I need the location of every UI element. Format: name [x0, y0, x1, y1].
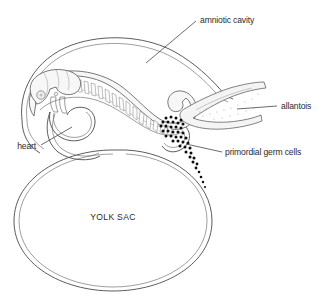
label-amniotic-cavity: amniotic cavity: [200, 15, 255, 25]
embryo-head: [30, 69, 80, 104]
embryo-body: [29, 69, 196, 159]
label-allantois: allantois: [281, 101, 311, 111]
embryo-diagram: amniotic cavity allantois primordial ger…: [0, 0, 326, 303]
label-primordial-germ-cells: primordial germ cells: [225, 147, 301, 157]
allantois-shape: [180, 82, 266, 129]
label-heart: heart: [17, 141, 37, 151]
label-yolk-sac: YOLK SAC: [90, 212, 135, 222]
leader-allantois: [237, 106, 277, 109]
